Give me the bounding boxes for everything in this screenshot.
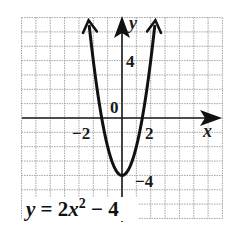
equation-label: y = 2x2 − 4 xyxy=(22,196,138,221)
axes: x y xyxy=(22,13,222,222)
equation-text: y = 2x2 − 4 xyxy=(23,196,119,221)
y-tick-4: 4 xyxy=(126,52,135,71)
y-axis-label: y xyxy=(127,13,138,33)
y-tick-neg4: −4 xyxy=(135,172,154,191)
x-tick-2: 2 xyxy=(145,124,154,143)
x-axis-label: x xyxy=(202,121,212,141)
x-tick-neg2: −2 xyxy=(72,124,90,143)
origin-label: 0 xyxy=(110,98,119,117)
coordinate-graph: x y 0 −2 2 4 −4 y = 2x2 − 4 xyxy=(0,0,227,232)
